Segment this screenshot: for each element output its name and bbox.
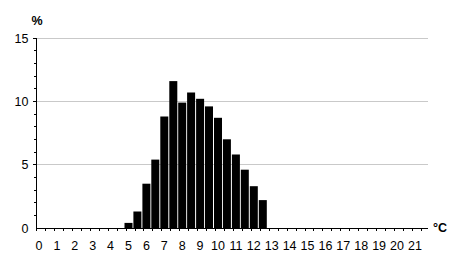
histogram-bar	[250, 186, 258, 228]
histogram-bar	[241, 170, 249, 228]
x-tick-label: 12	[247, 239, 261, 253]
histogram-bar	[187, 93, 195, 229]
x-tick-label: 11	[229, 239, 242, 253]
chart-canvas: 0510150123456789101112131415161718192021…	[0, 0, 461, 263]
histogram-bar	[160, 117, 168, 229]
histogram-bar	[178, 103, 186, 228]
x-tick-label: 18	[354, 239, 368, 253]
histogram-bar	[196, 99, 204, 228]
x-tick-label: 13	[265, 239, 279, 253]
histogram-bar	[205, 106, 213, 228]
x-tick-label: 16	[318, 239, 332, 253]
y-axis-unit-label: %	[31, 14, 42, 28]
histogram-bar	[151, 160, 159, 228]
histogram-bar	[142, 184, 150, 228]
histogram-bar	[223, 139, 231, 228]
histogram-bar	[214, 118, 222, 228]
x-tick-label: 1	[53, 239, 60, 253]
x-tick-label: 14	[283, 239, 297, 253]
x-tick-label: 21	[408, 239, 422, 253]
histogram-bar	[259, 200, 267, 228]
histogram-bar	[125, 223, 133, 228]
x-tick-label: 8	[179, 239, 186, 253]
y-tick-label: 0	[22, 222, 29, 236]
x-tick-label: 3	[89, 239, 96, 253]
x-tick-label: 4	[107, 239, 114, 253]
x-tick-label: 17	[336, 239, 350, 253]
x-tick-label: 2	[71, 239, 78, 253]
x-tick-label: 19	[372, 239, 386, 253]
histogram-bar	[133, 212, 141, 229]
histogram-bar	[169, 81, 177, 228]
x-tick-label: 10	[211, 239, 225, 253]
x-tick-label: 0	[36, 239, 43, 253]
y-tick-label: 10	[15, 95, 29, 109]
y-tick-label: 5	[22, 158, 29, 172]
histogram-bar	[232, 155, 240, 229]
temperature-histogram-chart: 0510150123456789101112131415161718192021…	[0, 0, 461, 263]
x-tick-label: 20	[390, 239, 404, 253]
x-axis-unit-label: °C	[433, 221, 447, 235]
y-tick-label: 15	[15, 32, 29, 46]
x-tick-label: 7	[161, 239, 168, 253]
x-tick-label: 9	[197, 239, 204, 253]
x-tick-label: 15	[301, 239, 315, 253]
x-tick-label: 5	[125, 239, 132, 253]
x-tick-label: 6	[143, 239, 150, 253]
